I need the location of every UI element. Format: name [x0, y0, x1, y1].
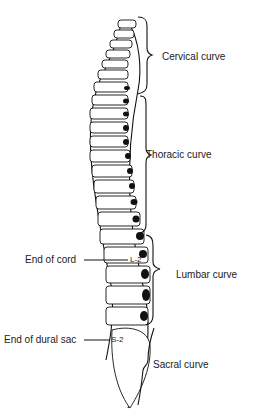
label-sacral-curve: Sacral curve — [153, 360, 209, 370]
thoracic-brace — [140, 96, 151, 233]
label-end-of-dural-sac: End of dural sac — [4, 335, 76, 345]
level-s2: S-2 — [111, 336, 123, 344]
cervical-brace — [138, 17, 152, 94]
spine-diagram: Cervical curve Thoracic curve Lumbar cur… — [0, 0, 261, 414]
label-lumbar-curve: Lumbar curve — [176, 270, 237, 280]
label-thoracic-curve: Thoracic curve — [146, 150, 212, 160]
spine-illustration — [0, 0, 261, 414]
level-l2: L-2 — [130, 256, 142, 264]
label-cervical-curve: Cervical curve — [162, 52, 225, 62]
label-end-of-cord: End of cord — [25, 255, 76, 265]
